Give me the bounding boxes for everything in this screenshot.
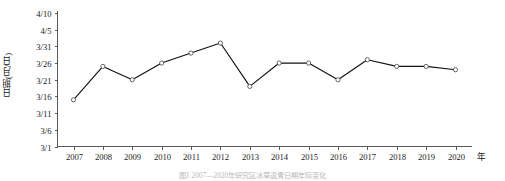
x-tick-label: 2009 xyxy=(124,152,141,162)
data-point-marker xyxy=(424,64,428,68)
x-tick-label: 2017 xyxy=(359,152,377,162)
y-tick-label: 3/1 xyxy=(41,143,52,153)
data-point-marker xyxy=(71,98,75,102)
x-tick-label: 2013 xyxy=(242,152,259,162)
data-point-marker xyxy=(160,61,164,65)
x-tick-label: 2016 xyxy=(330,152,348,162)
data-point-marker xyxy=(218,41,222,45)
x-tick-label: 2010 xyxy=(154,152,171,162)
data-point-marker xyxy=(365,58,369,62)
chart-axes xyxy=(58,11,472,147)
data-point-marker xyxy=(189,51,193,55)
data-point-marker xyxy=(101,64,105,68)
y-tick-label: 3/31 xyxy=(36,42,51,52)
y-tick-label: 3/16 xyxy=(36,92,52,102)
x-tick-label: 2014 xyxy=(271,152,289,162)
data-point-marker xyxy=(336,78,340,82)
y-tick-label: 3/6 xyxy=(41,126,53,136)
x-tick-label: 2019 xyxy=(418,152,435,162)
data-point-marker xyxy=(395,64,399,68)
x-tick-label: 2007 xyxy=(66,152,84,162)
figure-caption: 图1 2007—2020年研究区冰草返青日期年际变化 xyxy=(0,171,505,180)
x-tick-label: 2012 xyxy=(212,152,229,162)
x-tick-label: 2015 xyxy=(301,152,318,162)
x-tick-label: 2008 xyxy=(95,152,112,162)
data-point-markers xyxy=(71,41,457,102)
x-tick-label: 2020 xyxy=(448,152,465,162)
data-series-line xyxy=(74,43,456,100)
y-tick-label: 3/21 xyxy=(36,76,51,86)
line-chart-plot: 4/104/53/313/263/213/163/113/63/1 200720… xyxy=(0,0,505,181)
data-point-marker xyxy=(453,68,457,72)
x-tick-label: 2011 xyxy=(183,152,200,162)
x-axis-unit-label: 年 xyxy=(477,151,486,162)
x-tick-label: 2018 xyxy=(389,152,406,162)
y-tick-label: 3/26 xyxy=(36,59,52,69)
y-tick-label: 3/11 xyxy=(37,109,52,119)
data-point-marker xyxy=(130,78,134,82)
x-tick-label-group: 2007200820092010201120122013201420152016… xyxy=(66,152,465,162)
y-tick-label-group: 4/104/53/313/263/213/163/113/63/1 xyxy=(36,9,52,153)
chart-figure: 日期(月/日) 4/104/53/313/263/213/163/113/63/… xyxy=(0,0,505,181)
y-tick-label: 4/5 xyxy=(41,26,52,36)
data-point-marker xyxy=(248,84,252,88)
data-point-marker xyxy=(277,61,281,65)
y-tick-label: 4/10 xyxy=(36,9,51,19)
data-point-marker xyxy=(306,61,310,65)
